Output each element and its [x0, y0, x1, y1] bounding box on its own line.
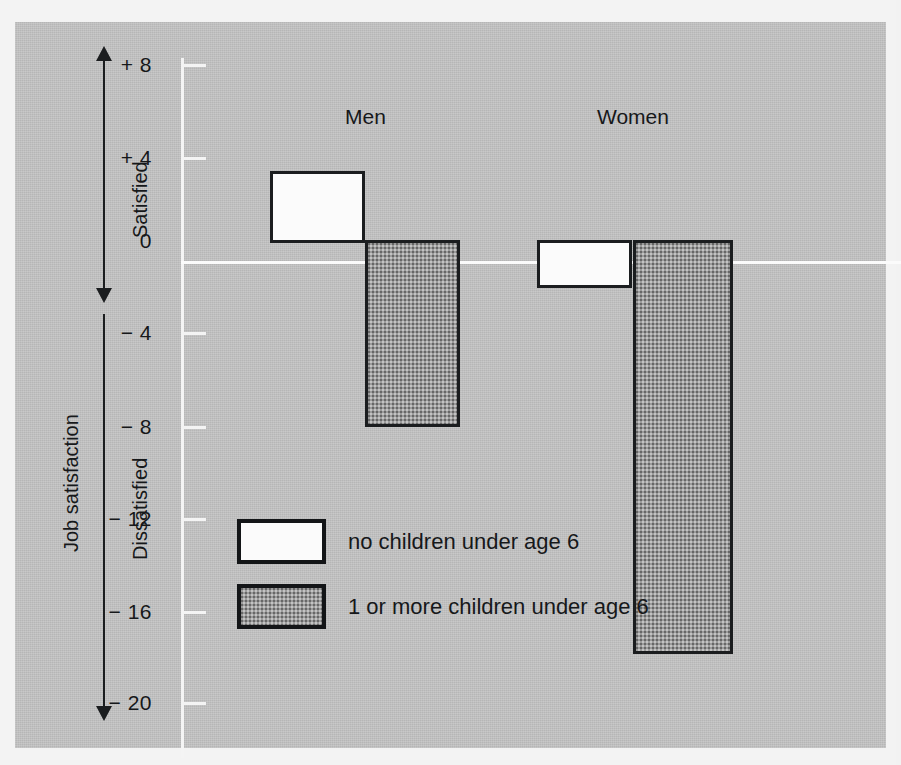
legend-swatch-white	[237, 519, 326, 564]
chart-legend: no children under age 6 1 or more childr…	[237, 519, 649, 649]
legend-item-with-children: 1 or more children under age 6	[237, 584, 649, 629]
y-tick-plus8	[184, 64, 206, 67]
satisfied-arrow-shaft	[103, 60, 105, 300]
y-tick-minus20	[184, 702, 206, 705]
y-tick-label-minus4: − 4	[70, 321, 152, 345]
axis-label-dissatisfied: Dissatisfied	[129, 458, 152, 560]
axis-label-satisfied: Satisfied	[129, 161, 152, 238]
y-tick-minus16	[184, 611, 206, 614]
y-tick-minus8	[184, 426, 206, 429]
legend-label-with-children: 1 or more children under age 6	[348, 594, 649, 620]
legend-label-no-children: no children under age 6	[348, 529, 579, 555]
legend-swatch-shaded	[237, 584, 326, 629]
dissatisfied-arrow-head-icon	[96, 706, 112, 721]
y-axis-title: Job satisfaction	[60, 414, 83, 552]
y-tick-label-minus16: − 16	[70, 600, 152, 624]
bar-women-no-children	[537, 240, 632, 288]
y-axis-line	[181, 58, 184, 758]
legend-item-no-children: no children under age 6	[237, 519, 649, 564]
y-tick-minus4	[184, 332, 206, 335]
group-label-women: Women	[597, 105, 669, 129]
y-tick-plus4	[184, 157, 206, 160]
bar-men-no-children	[270, 171, 365, 243]
satisfied-arrow-head-icon	[96, 46, 112, 61]
chart-panel: + 8 + 4 0 − 4 − 8 − 12 − 16 − 20 Satisfi…	[15, 22, 886, 748]
y-tick-minus12	[184, 518, 206, 521]
group-label-men: Men	[345, 105, 386, 129]
dissatisfied-arrow-shaft	[103, 314, 105, 714]
satisfied-arrow-head-down-icon	[96, 288, 112, 303]
bar-men-with-children	[365, 240, 460, 427]
